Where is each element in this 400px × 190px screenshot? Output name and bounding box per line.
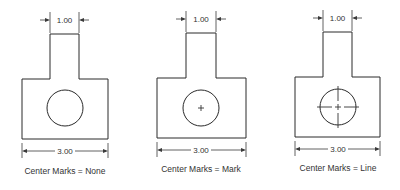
figure-caption: Center Marks = Line [300, 163, 377, 173]
top-dimension-label: 1.00 [57, 16, 73, 25]
center-mark-icon [198, 105, 204, 111]
top-dimension-label: 1.00 [193, 15, 209, 24]
bottom-dimension: 3.00 [157, 142, 246, 157]
figure-center-marks-none: 1.00 3.00 Center Marks = None [22, 12, 108, 176]
figure-caption: Center Marks = None [24, 166, 105, 176]
bottom-dimension: 3.00 [22, 143, 108, 158]
center-line-icon [317, 86, 359, 128]
top-dimension: 1.00 [40, 12, 89, 33]
part-outline [22, 34, 108, 139]
figure-center-marks-mark: 1.00 3.00 Center Marks = Mark [157, 11, 246, 174]
hole-circle [47, 90, 83, 126]
bottom-dimension-label: 3.00 [57, 147, 73, 156]
figure-center-marks-line: 1.00 3.00 Center Marks = Line [295, 10, 380, 173]
top-dimension-label: 1.00 [330, 14, 346, 23]
bottom-dimension-label: 3.00 [330, 145, 346, 154]
center-marks-diagram: 1.00 3.00 Center Marks = None 1 [0, 0, 400, 190]
top-dimension: 1.00 [313, 10, 362, 31]
bottom-dimension: 3.00 [295, 141, 380, 156]
part-outline [295, 32, 380, 137]
part-outline [157, 33, 246, 138]
bottom-dimension-label: 3.00 [193, 146, 209, 155]
figure-caption: Center Marks = Mark [161, 164, 241, 174]
top-dimension: 1.00 [176, 11, 226, 32]
